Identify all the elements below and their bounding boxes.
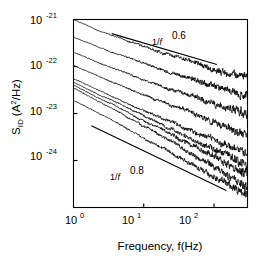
x-tick-mantissa-2: 10 [179,214,191,226]
y-tick-exponent-0: -21 [46,11,57,20]
annotation-0p6-text: 1/f [152,37,164,47]
annotation-0p6-exponent: 0.6 [172,30,186,41]
x-tick-exponent-1: 1 [137,211,141,220]
annotation-0p8-text: 1/f [110,172,122,182]
y-axis-title-subscript: ID [16,119,25,127]
y-axis-title-unit-open: (A [10,104,22,119]
y-tick-exponent-3: -24 [46,147,57,156]
noise-spectrum-chart: 10 -21 10 -22 10 -23 10 -24 10 0 1 [0,0,258,262]
y-tick-mantissa-0: 10 [30,14,42,26]
x-tick-mantissa-0: 10 [65,214,77,226]
y-tick-mantissa-1: 10 [30,59,42,71]
annotation-0p8-exponent: 0.8 [130,165,144,176]
x-axis-title: Frequency, f(Hz) [118,240,203,252]
y-tick-mantissa-2: 10 [30,105,42,117]
figure-container: 10 -21 10 -22 10 -23 10 -24 10 0 1 [0,0,258,262]
y-tick-exponent-1: -22 [46,56,57,65]
y-tick-mantissa-3: 10 [30,150,42,162]
y-axis-title-unit-close: /Hz) [10,79,22,100]
y-tick-exponent-2: -23 [46,102,57,111]
x-tick-exponent-0: 0 [80,211,84,220]
x-tick-exponent-2: 2 [194,211,198,220]
x-tick-mantissa-1: 10 [122,214,134,226]
